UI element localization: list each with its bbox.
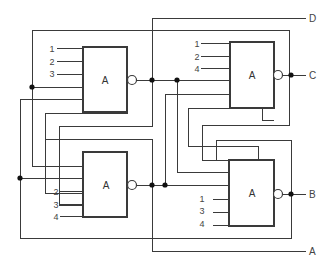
inverter-bubble-icon xyxy=(128,76,137,85)
junction-dot-icon xyxy=(17,175,22,180)
junction-dot-icon xyxy=(288,191,293,196)
input-label: 1 xyxy=(199,194,204,204)
wire-d-output xyxy=(152,18,306,103)
input-label: 3 xyxy=(49,69,54,79)
junction-dot-icon xyxy=(288,72,293,77)
gate-label: A xyxy=(249,70,256,81)
input-label: 1 xyxy=(49,44,54,54)
input-label: 2 xyxy=(49,57,54,67)
junction-dot-icon xyxy=(149,182,154,187)
input-label: 1 xyxy=(194,39,199,49)
wire-c-net-down xyxy=(262,108,274,120)
gate-label: A xyxy=(249,188,256,199)
input-label: 4 xyxy=(53,212,58,222)
input-label: 2 xyxy=(194,52,199,62)
junction-dot-icon xyxy=(149,77,154,82)
gate-label: A xyxy=(102,75,109,86)
output-label-a: A xyxy=(309,246,316,257)
input-label: 4 xyxy=(194,64,199,74)
gate-bottom-left: A 2 3 4 xyxy=(53,152,136,222)
output-labels: D C B A xyxy=(309,13,316,257)
output-label-d: D xyxy=(309,13,316,24)
input-label: 3 xyxy=(53,200,58,210)
junction-dot-icon xyxy=(162,182,167,187)
junction-dot-icon xyxy=(174,77,179,82)
inverter-bubble-icon xyxy=(274,71,283,80)
inverter-bubble-icon xyxy=(274,190,283,199)
output-label-b: B xyxy=(309,189,316,200)
gate-top-right: A 1 2 4 xyxy=(194,39,282,108)
junction-dot-icon xyxy=(29,84,34,89)
logic-circuit-diagram: A 1 2 3 A 1 2 4 A 2 3 4 A 1 3 4 xyxy=(0,0,334,267)
inverter-bubble-icon xyxy=(128,181,137,190)
input-label: 2 xyxy=(53,187,58,197)
output-label-c: C xyxy=(309,70,316,81)
gate-label: A xyxy=(103,180,110,191)
gate-bottom-right: A 1 3 4 xyxy=(199,160,282,229)
wire-tr-loop-right xyxy=(230,146,275,160)
gate-top-left: A 1 2 3 xyxy=(49,44,136,112)
input-label: 3 xyxy=(199,206,204,216)
input-label: 4 xyxy=(199,219,204,229)
